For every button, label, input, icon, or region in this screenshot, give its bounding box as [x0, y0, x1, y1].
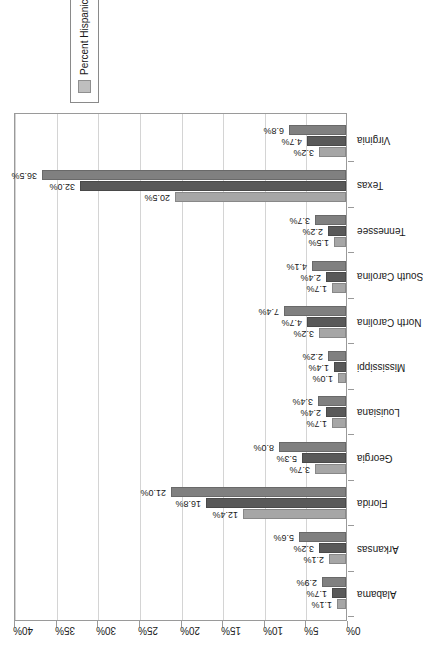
- category-axis-label: Texas: [357, 180, 383, 190]
- bar: 21.0%: [171, 487, 346, 497]
- category-axis-label: Florida: [357, 498, 388, 508]
- value-axis-label: 5%: [304, 625, 318, 635]
- value-axis-label: 25%: [138, 625, 158, 635]
- plot-area: 1.1%1.7%2.9%2.1%3.2%5.6%12.4%16.8%21.0%3…: [14, 113, 347, 621]
- bar-value-label: 4.7%: [281, 137, 302, 146]
- category-axis-label: Tennessee: [357, 226, 405, 236]
- bar-value-label: 3.7%: [290, 465, 311, 474]
- bar: 5.3%: [302, 453, 346, 463]
- bar: 20.5%: [175, 192, 346, 202]
- bar: 4.1%: [312, 261, 346, 271]
- category-tick-group: Florida: [348, 481, 412, 526]
- category-tick-group: Louisiana: [348, 390, 412, 435]
- bar-group: 3.2%4.7%6.8%: [15, 118, 346, 163]
- bar-value-label: 2.4%: [301, 273, 322, 282]
- value-axis-label: 30%: [96, 625, 116, 635]
- bar-value-label: 2.4%: [301, 408, 322, 417]
- bar-group: 1.1%1.7%2.9%: [15, 571, 346, 616]
- bar: 2.1%: [329, 554, 346, 564]
- value-axis-label: 40%: [13, 625, 33, 635]
- category-tick: [348, 571, 354, 572]
- bar-value-label: 5.3%: [276, 454, 297, 463]
- bar-group: 20.5%32.0%36.5%: [15, 163, 346, 208]
- bar: 2.4%: [326, 407, 346, 417]
- value-axis-label: 15%: [221, 625, 241, 635]
- bar: 1.7%: [332, 418, 346, 428]
- bar-value-label: 1.4%: [309, 363, 330, 372]
- bar: 4.7%: [307, 136, 346, 146]
- bar: 7.4%: [284, 306, 346, 316]
- bar: 3.2%: [319, 543, 346, 553]
- category-tick: [348, 434, 354, 435]
- category-tick: [348, 161, 354, 162]
- bar: 1.5%: [334, 237, 346, 247]
- bar: 2.2%: [328, 351, 346, 361]
- bar: 3.2%: [319, 147, 346, 157]
- bar-value-label: 32.0%: [49, 182, 75, 191]
- bar: 32.0%: [80, 181, 346, 191]
- bar: 16.8%: [206, 498, 346, 508]
- value-axis-label: 20%: [180, 625, 200, 635]
- legend-item[interactable]: Percent Hispanic VAP 2000: [78, 0, 91, 93]
- category-tick-group: Arkansas: [348, 526, 412, 571]
- category-axis-label: South Carolina: [357, 271, 423, 281]
- legend-swatch-icon: [78, 80, 91, 93]
- category-axis-label: Alabama: [357, 589, 396, 599]
- value-axis-label: 0%: [346, 625, 360, 635]
- bar: 4.7%: [307, 317, 346, 327]
- bar-value-label: 3.2%: [294, 329, 315, 338]
- bar-value-label: 2.1%: [303, 555, 324, 564]
- bar-value-label: 3.2%: [294, 544, 315, 553]
- bar-value-label: 2.2%: [302, 352, 323, 361]
- bar: 3.7%: [315, 464, 346, 474]
- category-tick-group: Georgia: [348, 435, 412, 480]
- bar-value-label: 8.0%: [254, 443, 275, 452]
- bar-value-label: 6.8%: [264, 126, 285, 135]
- category-tick-group: Tennessee: [348, 208, 412, 253]
- bar-group: 2.1%3.2%5.6%: [15, 525, 346, 570]
- bar: 1.1%: [337, 599, 346, 609]
- bar: 2.9%: [322, 577, 346, 587]
- bar-group: 1.7%2.4%4.1%: [15, 254, 346, 299]
- category-tick: [348, 480, 354, 481]
- bar-value-label: 16.8%: [176, 499, 202, 508]
- bar-value-label: 1.7%: [306, 419, 327, 428]
- category-axis-label: Mississippi: [357, 362, 405, 372]
- bar-value-label: 36.5%: [12, 171, 38, 180]
- category-axis-label: North Carolina: [357, 317, 421, 327]
- bar-value-label: 4.7%: [281, 318, 302, 327]
- bar-group: 1.7%2.4%3.4%: [15, 390, 346, 435]
- category-tick: [348, 525, 354, 526]
- category-axis-label: Virginia: [357, 135, 390, 145]
- bar-value-label: 3.4%: [292, 397, 313, 406]
- bar-groups: 1.1%1.7%2.9%2.1%3.2%5.6%12.4%16.8%21.0%3…: [15, 114, 346, 620]
- bar: 3.4%: [318, 396, 346, 406]
- category-tick: [348, 207, 354, 208]
- category-tick-group: South Carolina: [348, 253, 412, 298]
- category-tick: [348, 343, 354, 344]
- bar-group: 1.0%1.4%2.2%: [15, 344, 346, 389]
- category-tick: [348, 389, 354, 390]
- bar: 2.2%: [328, 226, 346, 236]
- category-tick-group: Mississippi: [348, 344, 412, 389]
- bar: 8.0%: [279, 442, 346, 452]
- bar-value-label: 2.2%: [302, 227, 323, 236]
- category-axis-label: Georgia: [357, 453, 393, 463]
- bar-group: 12.4%16.8%21.0%: [15, 480, 346, 525]
- bar-group: 3.7%5.3%8.0%: [15, 435, 346, 480]
- bar-value-label: 1.1%: [311, 600, 332, 609]
- bar-value-label: 1.7%: [306, 284, 327, 293]
- bar-value-label: 7.4%: [259, 307, 280, 316]
- bar-value-label: 5.6%: [274, 533, 295, 542]
- bar-value-label: 2.9%: [296, 578, 317, 587]
- bar-value-label: 3.7%: [290, 216, 311, 225]
- value-axis: 0%5%10%15%20%25%30%35%40%: [14, 621, 347, 659]
- bar-value-label: 1.0%: [312, 374, 333, 383]
- category-tick: [348, 298, 354, 299]
- bar: 3.2%: [319, 328, 346, 338]
- category-tick-group: Virginia: [348, 117, 412, 162]
- category-tick: [348, 252, 354, 253]
- bar: 1.7%: [332, 283, 346, 293]
